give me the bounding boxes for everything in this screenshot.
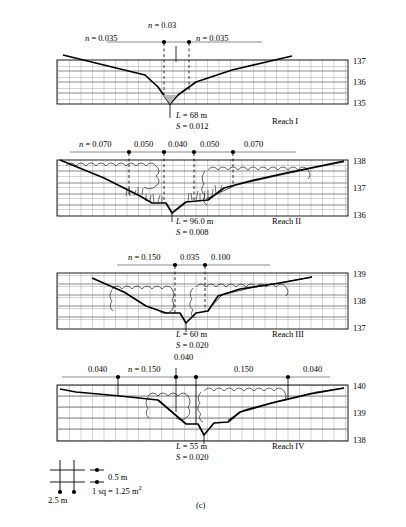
reach-3-length-slope: L = 60 m S = 0.020	[176, 329, 208, 350]
reach-4-n-label-3: 0.150	[234, 365, 253, 375]
reach-3-n-label-2: 0.100	[211, 253, 230, 263]
reach-2-elevation-1: 137	[353, 183, 366, 193]
reach-3-elevation-1: 138	[353, 296, 366, 306]
reach-1-length-slope: L = 68 m S = 0.012	[176, 110, 208, 131]
figure-label: (c)	[196, 500, 205, 510]
reach-1-n-label-0: n = 0.035	[85, 34, 117, 44]
reach-2-length-slope: L = 96.0 m S = 0.008	[176, 216, 213, 237]
reach-3-elevation-2: 137	[353, 323, 366, 333]
reach-3-n-label-1: 0.035	[180, 253, 199, 263]
reach-2-n-label-3: 0.050	[200, 140, 219, 150]
reach-3-elevation-0: 139	[353, 269, 366, 279]
reach-4-name: Reach IV	[272, 441, 304, 451]
reach-1-n-label-2: n = 0.035	[196, 34, 228, 44]
reach-4-n-label-4: 0.040	[303, 365, 322, 375]
reach-4-slope: S = 0.020	[176, 452, 208, 463]
reach-3-n-label-0: n = 0.150	[128, 253, 160, 263]
reach-2-length: L = 96.0 m	[176, 216, 213, 227]
reach-4-length-slope: L = 55 m S = 0.020	[176, 441, 208, 462]
reach-2-n-label-0: n = 0.070	[79, 140, 111, 150]
reach-1-elevation-2: 135	[353, 98, 366, 108]
reach-2-section	[57, 150, 348, 222]
reach-4-n-label-2: 0.040	[174, 353, 193, 363]
legend-area-exponent: 2	[139, 484, 142, 491]
reach-3-slope: S = 0.020	[176, 340, 208, 351]
legend-horizontal-scale: 2.5 m	[48, 495, 67, 505]
reach-3-name: Reach III	[272, 329, 304, 339]
reach-2-elevation-0: 138	[353, 156, 366, 166]
reach-3-length: L = 60 m	[176, 329, 208, 340]
reach-4-n-label-1: n = 0.150	[128, 365, 160, 375]
reach-1-elevation-0: 137	[353, 56, 366, 66]
reach-4-n-label-0: 0.040	[88, 365, 107, 375]
reach-2-n-label-2: 0.040	[168, 140, 187, 150]
reach-1-n-label-1: n = 0.03	[148, 21, 176, 31]
reach-4-elevation-2: 138	[353, 435, 366, 445]
legend-area-scale: 1 sq = 1.25 m2	[92, 484, 142, 496]
reach-1-length: L = 68 m	[176, 110, 208, 121]
reach-1-section	[57, 40, 348, 118]
reach-4-length: L = 55 m	[176, 441, 208, 452]
reach-1-slope: S = 0.012	[176, 121, 208, 132]
reach-4-elevation-1: 139	[353, 408, 366, 418]
reach-3-section	[57, 263, 348, 332]
reach-2-n-label-1: 0.050	[134, 140, 153, 150]
reach-1-elevation-1: 136	[353, 77, 366, 87]
reach-4-section	[57, 368, 348, 444]
legend-vertical-scale: 0.5 m	[108, 472, 127, 482]
reach-2-slope: S = 0.008	[176, 227, 213, 238]
reach-2-n-label-4: 0.070	[244, 140, 263, 150]
reach-4-elevation-0: 140	[353, 381, 366, 391]
reach-2-elevation-2: 136	[353, 210, 366, 220]
reach-2-name: Reach II	[272, 216, 301, 226]
reach-1-name: Reach I	[272, 116, 298, 126]
